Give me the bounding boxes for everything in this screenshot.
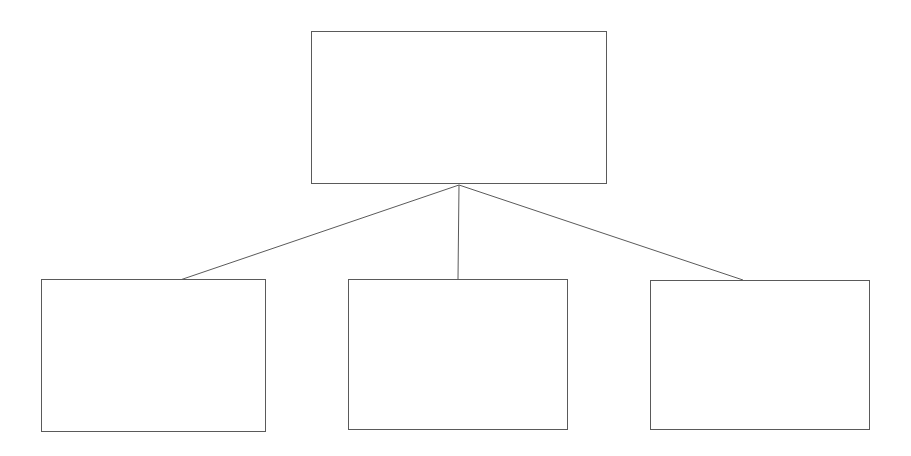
connector-root-to-child-1 (180, 185, 459, 280)
parent-node-root[interactable] (311, 31, 607, 184)
child-node-2[interactable] (348, 279, 568, 430)
connector-root-to-child-3 (459, 185, 743, 280)
diagram-canvas (0, 0, 911, 456)
child-node-3[interactable] (650, 280, 870, 430)
connector-root-to-child-2 (458, 185, 459, 279)
child-node-1[interactable] (41, 279, 266, 432)
